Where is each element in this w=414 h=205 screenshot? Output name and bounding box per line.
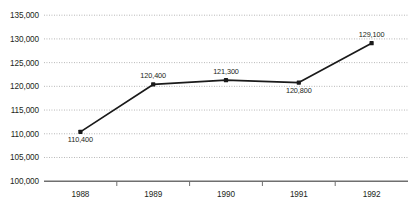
y-axis-tick-label: 130,000 bbox=[10, 35, 39, 44]
x-axis-tick-label: 1991 bbox=[290, 190, 308, 199]
y-axis-tick-label: 135,000 bbox=[10, 11, 39, 20]
x-axis-tick-label: 1988 bbox=[71, 190, 89, 199]
data-point-label: 120,400 bbox=[140, 71, 166, 80]
y-axis-tick-label: 110,000 bbox=[11, 130, 40, 139]
gridlines bbox=[44, 15, 408, 157]
data-point-label: 110,400 bbox=[68, 135, 93, 144]
y-axis-tick-label: 105,000 bbox=[10, 153, 39, 162]
data-point-markers bbox=[78, 41, 373, 134]
x-axis-tick-labels: 19881989199019911992 bbox=[71, 190, 381, 199]
x-axis-tick-label: 1990 bbox=[217, 190, 235, 199]
data-point-marker bbox=[78, 130, 82, 134]
line-chart: 100,000105,000110,000115,000120,000125,0… bbox=[0, 0, 414, 205]
y-axis-tick-labels: 100,000105,000110,000115,000120,000125,0… bbox=[10, 11, 39, 186]
y-axis-tick-label: 115,000 bbox=[11, 106, 40, 115]
data-point-marker bbox=[297, 80, 301, 84]
data-point-label: 120,800 bbox=[286, 86, 312, 95]
x-axis-tick-label: 1992 bbox=[363, 190, 381, 199]
data-point-labels: 110,400120,400121,300120,800129,100 bbox=[68, 30, 385, 144]
x-axis-tick-label: 1989 bbox=[144, 190, 162, 199]
data-point-label: 121,300 bbox=[213, 67, 239, 76]
data-point-marker bbox=[224, 78, 228, 82]
data-series-line bbox=[80, 43, 371, 132]
data-point-label: 129,100 bbox=[359, 30, 385, 39]
chart-canvas: 100,000105,000110,000115,000120,000125,0… bbox=[0, 0, 414, 205]
y-axis-tick-label: 120,000 bbox=[10, 82, 39, 91]
y-axis-tick-label: 100,000 bbox=[10, 177, 39, 186]
data-point-marker bbox=[151, 82, 155, 86]
y-axis-tick-label: 125,000 bbox=[10, 59, 39, 68]
data-point-marker bbox=[370, 41, 374, 45]
